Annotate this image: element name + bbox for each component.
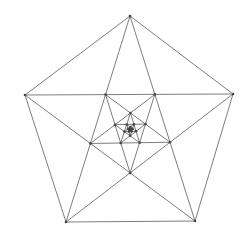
vertex-dot — [154, 93, 157, 96]
vertex-dot — [125, 123, 128, 126]
vertex-dot — [133, 123, 136, 126]
vertex-dot — [194, 220, 197, 223]
vertex-dot — [129, 15, 132, 18]
vertex-dot — [89, 142, 92, 145]
pentagram-edge — [25, 94, 233, 95]
vertex-dot — [138, 141, 141, 144]
vertex-dot — [135, 130, 138, 133]
vertex-dot — [129, 112, 132, 115]
vertex-dot — [232, 93, 235, 96]
pentagram-edge — [106, 95, 131, 173]
outer-pentagon — [25, 16, 233, 222]
pentagram-edge — [90, 142, 170, 143]
pentagram-edge — [66, 16, 130, 222]
pentagram-edge — [25, 95, 195, 221]
vertex-dot — [129, 128, 132, 131]
vertex-dot — [169, 141, 172, 144]
vertex-dot — [114, 123, 117, 126]
nested-pentagram-diagram — [0, 0, 243, 242]
vertex-dot — [119, 142, 122, 145]
pentagram-edge — [106, 95, 170, 143]
pentagram-edge — [130, 16, 195, 221]
pentagram-edge — [66, 94, 233, 222]
vertex-dots — [24, 15, 235, 224]
pentagram-edge — [115, 124, 145, 125]
pentagram-edge — [130, 94, 155, 173]
vertex-dot — [104, 93, 107, 96]
vertex-dot — [24, 94, 27, 97]
vertex-dot — [129, 135, 132, 138]
vertex-dot — [123, 130, 126, 133]
vertex-dot — [129, 172, 132, 175]
vertex-dot — [65, 221, 68, 224]
vertex-dot — [144, 123, 147, 126]
